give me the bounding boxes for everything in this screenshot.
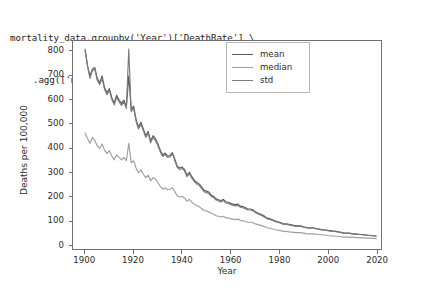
- x-tick-label: 1920: [122, 255, 144, 266]
- x-tick-mark: [230, 250, 231, 254]
- legend-swatch-icon: [232, 80, 253, 81]
- y-tick-label: 200: [48, 191, 64, 202]
- y-tick-label: 400: [48, 142, 64, 153]
- legend-label: median: [260, 61, 292, 74]
- y-tick-label: 700: [48, 69, 64, 80]
- y-tick-label: 600: [48, 94, 64, 105]
- x-tick-label: 1980: [269, 255, 291, 266]
- x-tick-mark: [279, 250, 280, 254]
- x-tick-label: 1960: [220, 255, 242, 266]
- y-tick-label: 800: [48, 45, 64, 56]
- legend-item-median[interactable]: median: [232, 61, 303, 74]
- y-tick-label: 500: [48, 118, 64, 129]
- legend-label: std: [260, 74, 273, 87]
- x-tick-mark: [377, 250, 378, 254]
- x-axis-label: Year: [72, 266, 382, 276]
- y-tick-label: 100: [48, 215, 64, 226]
- matplotlib-figure: 0100200300400500600700800 19001920194019…: [0, 32, 448, 289]
- x-tick-label: 1900: [73, 255, 95, 266]
- legend-label: mean: [260, 48, 284, 61]
- y-tick-label: 0: [59, 240, 64, 251]
- x-tick-mark: [328, 250, 329, 254]
- x-tick-mark: [181, 250, 182, 254]
- y-tick-label: 300: [48, 167, 64, 178]
- x-tick-label: 2020: [366, 255, 388, 266]
- x-tick-label: 1940: [171, 255, 193, 266]
- legend-swatch-icon: [232, 54, 253, 55]
- chart-legend: meanmedianstd: [226, 42, 310, 93]
- line-series-median: [85, 133, 376, 238]
- x-tick-mark: [84, 250, 85, 254]
- legend-item-mean[interactable]: mean: [232, 48, 303, 61]
- x-tick-mark: [133, 250, 134, 254]
- legend-item-std[interactable]: std: [232, 74, 303, 87]
- x-tick-label: 2000: [317, 255, 339, 266]
- legend-swatch-icon: [232, 67, 253, 68]
- y-axis-label: Deaths per 100,000: [19, 65, 29, 235]
